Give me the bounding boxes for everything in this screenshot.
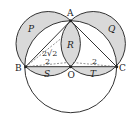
geometry-diagram: A B C O P Q R S T 2√2 2 2 xyxy=(0,0,136,117)
label-right-length: 2 xyxy=(92,57,97,66)
label-a: A xyxy=(66,8,74,18)
label-region-t: T xyxy=(90,69,97,79)
label-region-r: R xyxy=(66,40,74,50)
label-o: O xyxy=(68,70,75,80)
label-b: B xyxy=(15,63,22,73)
label-region-s: S xyxy=(44,69,50,79)
label-c: C xyxy=(119,63,126,73)
point-o xyxy=(69,65,72,68)
point-c xyxy=(115,65,118,68)
point-b xyxy=(24,65,27,68)
label-region-q: Q xyxy=(108,24,116,34)
label-region-p: P xyxy=(27,24,35,34)
label-left-length: 2 xyxy=(45,57,50,66)
point-a xyxy=(69,19,72,22)
